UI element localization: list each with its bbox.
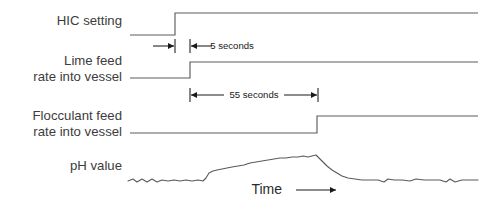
fifty-five-seconds-label: 55 seconds (229, 89, 278, 100)
fifty-five-seconds-arrowhead-right (311, 92, 317, 98)
flocculant-feed-label-line2: rate into vessel (33, 124, 122, 139)
signal-row-ph-value: pH value (70, 155, 478, 182)
hic-setting-trace (130, 13, 478, 35)
lime-feed-label-line2: rate into vessel (33, 69, 122, 84)
lime-feed-trace (130, 62, 478, 78)
ph-value-label: pH value (70, 158, 122, 173)
timing-diagram-canvas: HIC setting 5 seconds Lime feed rate int… (0, 0, 498, 207)
signal-row-lime-feed: Lime feed rate into vessel (33, 53, 478, 84)
time-axis-label: Time (251, 181, 282, 197)
signal-row-flocculant-feed: Flocculant feed rate into vessel (33, 108, 478, 139)
dimension-five-seconds: 5 seconds (153, 39, 254, 53)
ph-value-trace (128, 155, 478, 182)
lime-feed-label-line1: Lime feed (64, 53, 122, 68)
hic-setting-label: HIC setting (57, 13, 122, 28)
signal-row-hic-setting: HIC setting (57, 13, 478, 35)
five-seconds-arrowhead-left (168, 43, 174, 49)
time-axis: Time (251, 181, 336, 197)
fifty-five-seconds-arrowhead-left (191, 92, 197, 98)
flocculant-feed-label-line1: Flocculant feed (33, 108, 122, 123)
time-arrow-icon (330, 187, 336, 193)
five-seconds-label: 5 seconds (210, 40, 254, 51)
dimension-fifty-five-seconds: 55 seconds (190, 88, 318, 102)
timing-diagram-figure: HIC setting 5 seconds Lime feed rate int… (0, 0, 498, 207)
flocculant-feed-trace (130, 116, 478, 133)
five-seconds-arrowhead-right (191, 43, 197, 49)
